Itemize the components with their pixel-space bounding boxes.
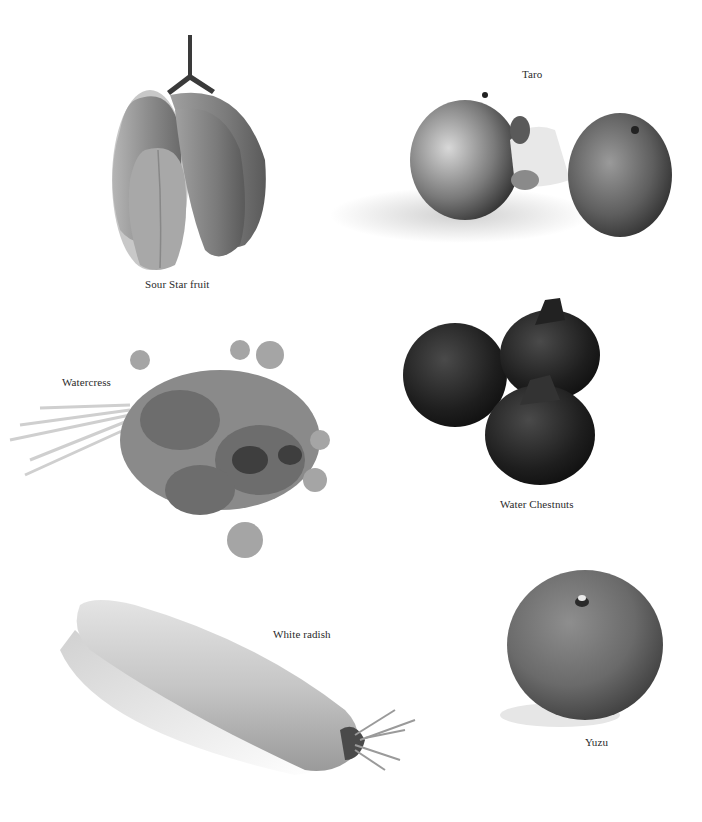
taro-figure: Taro xyxy=(330,60,680,250)
taro-photo xyxy=(330,60,680,250)
yuzu-photo xyxy=(490,560,670,730)
white-radish-photo xyxy=(55,590,435,790)
water-chestnuts-label: Water Chestnuts xyxy=(500,498,574,510)
starfruit-figure: Sour Star fruit xyxy=(100,30,280,275)
yuzu-label: Yuzu xyxy=(585,736,608,748)
yuzu-figure: Yuzu xyxy=(490,560,670,760)
starfruit-photo xyxy=(100,30,280,275)
white-radish-figure: White radish xyxy=(55,590,435,790)
water-chestnuts-photo xyxy=(400,290,620,490)
watercress-photo xyxy=(0,330,340,570)
watercress-label: Watercress xyxy=(62,376,111,388)
watercress-figure: Watercress xyxy=(0,330,340,570)
water-chestnuts-figure: Water Chestnuts xyxy=(400,290,620,520)
starfruit-label: Sour Star fruit xyxy=(145,278,209,290)
